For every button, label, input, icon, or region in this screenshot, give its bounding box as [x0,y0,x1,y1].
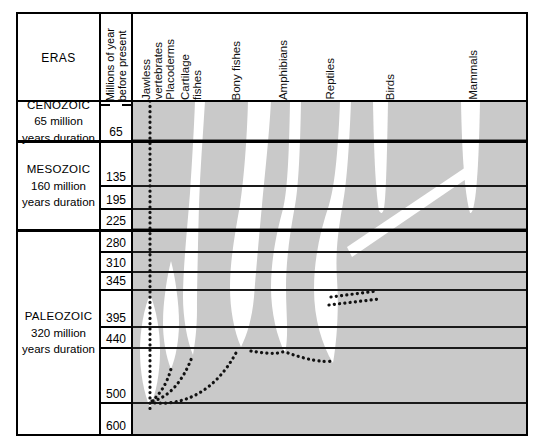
header-time-line1: Millions of year [104,28,116,101]
spindle-birds [373,101,388,213]
figure-root: ERAS Millions of year before present Jaw… [0,0,542,448]
plot-area [133,101,526,434]
era-name: CENOZOIC [27,97,90,114]
taxon-text: Cartilage [179,54,192,100]
dotted-to-birds-a [331,291,377,297]
era-cell-paleozoic: PALEOZOIC 320 million years duration [18,232,99,434]
era-cell-cenozoic: CENOZOIC 65 million years duration [18,103,99,140]
dotted-to-reptiles [288,353,333,362]
spindle-mammals [461,101,480,213]
taxon-text: vertebrates [152,42,165,100]
taxon-text: Reptiles [324,58,337,100]
time-tick-600: 600 [101,404,131,434]
header-time-axis: Millions of year before present [101,14,131,101]
header-eras: ERAS [18,14,99,101]
taxon-text: Jawless [140,59,153,100]
era-name: MESOZOIC [27,161,91,178]
taxon-text: fishes [191,70,204,100]
era-duration-line1: 160 million [31,178,86,195]
taxon-text: Bony fishes [230,41,243,100]
time-tick-225: 225 [101,210,131,229]
spindle-diagram [133,101,526,434]
header-time-line2: before present [116,28,128,101]
spindle-amphibians [271,101,301,353]
taxon-text: Mammals [467,50,480,100]
time-tick-195: 195 [101,187,131,208]
time-tick-395: 395 [101,291,131,326]
era-duration-line1: 65 million [34,113,83,130]
time-tick-500: 500 [101,349,131,402]
era-name: PALEOZOIC [25,308,93,325]
era-duration-line1: 320 million [31,325,86,342]
time-tick-310: 310 [101,253,131,271]
time-tick-440: 440 [101,328,131,347]
spindle-bony-fishes [230,101,271,347]
time-tick-345: 345 [101,273,131,289]
dotted-to-amphibians [251,351,285,353]
taxon-text: Birds [384,74,397,100]
era-cell-mesozoic: MESOZOIC 160 million years duration [18,143,99,229]
col-divider-time [131,12,133,436]
taxon-text: Amphibians [277,40,290,100]
time-tick-65: 65 [101,104,131,140]
time-tick-135: 135 [101,150,131,185]
spindle-shapes [140,101,480,408]
time-tick-280: 280 [101,232,131,251]
era-duration-line2: years duration [22,194,95,211]
spindle-placoderms [163,261,179,369]
lineage-band-mammals [347,165,475,257]
taxon-text: Placoderms [164,39,177,100]
era-duration-line2: years duration [22,341,95,358]
